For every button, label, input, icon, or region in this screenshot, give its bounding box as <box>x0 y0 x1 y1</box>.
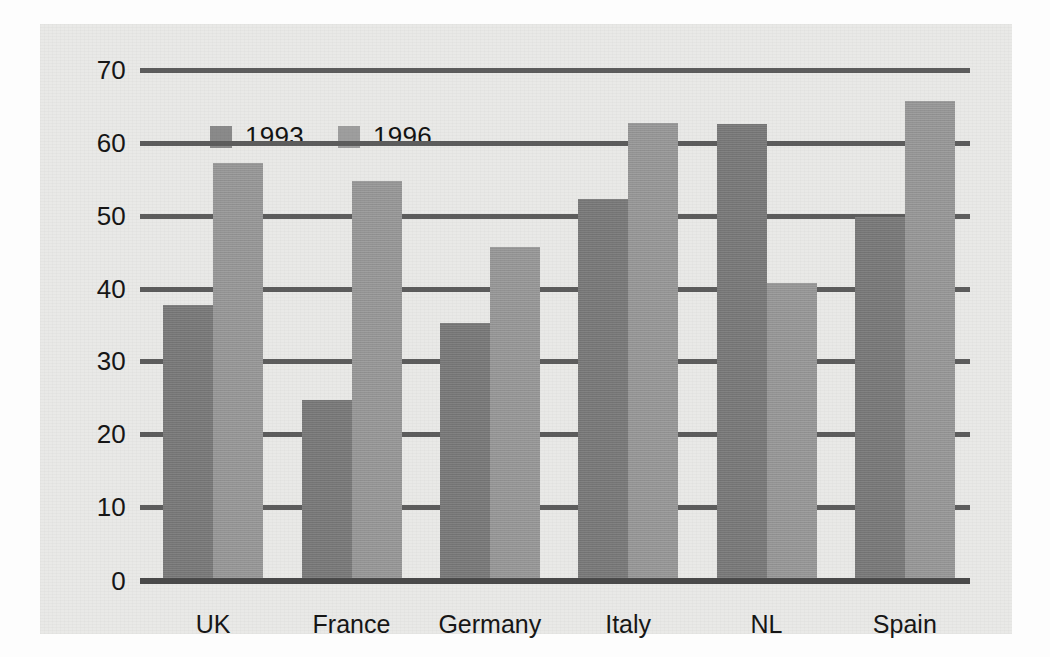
bar-spain-1993 <box>855 217 905 578</box>
gridline-60: 60 <box>140 141 970 146</box>
bar-france-1993 <box>302 400 352 579</box>
y-axis-tick-label: 60 <box>97 127 126 158</box>
y-axis-tick-label: 40 <box>97 273 126 304</box>
y-axis-tick-label: 20 <box>97 419 126 450</box>
x-axis-label-germany: Germany <box>438 610 541 639</box>
bar-uk-1996 <box>213 163 263 578</box>
x-axis-label-france: France <box>313 610 391 639</box>
bar-france-1996 <box>352 181 402 578</box>
plot-area: 010203040506070 UKFranceGermanyItalyNLSp… <box>140 44 970 602</box>
bar-uk-1993 <box>163 305 213 578</box>
bar-nl-1996 <box>767 283 817 578</box>
y-axis-tick-label: 0 <box>111 566 126 597</box>
y-axis-tick-label: 70 <box>97 55 126 86</box>
x-axis-label-nl: NL <box>751 610 783 639</box>
gridline-0: 0 <box>140 578 970 584</box>
y-axis-tick-label: 30 <box>97 346 126 377</box>
gridline-40: 40 <box>140 287 970 292</box>
gridline-70: 70 <box>140 68 970 73</box>
x-axis-label-spain: Spain <box>873 610 937 639</box>
gridline-20: 20 <box>140 432 970 437</box>
scanned-page: 1993 1996 010203040506070 UKFranceGerman… <box>0 0 1050 657</box>
gridline-50: 50 <box>140 214 970 219</box>
bar-italy-1993 <box>578 199 628 578</box>
bar-germany-1993 <box>440 323 490 578</box>
gridline-10: 10 <box>140 505 970 510</box>
bar-spain-1996 <box>905 101 955 578</box>
y-axis-tick-label: 50 <box>97 200 126 231</box>
bar-italy-1996 <box>628 123 678 578</box>
chart-panel: 1993 1996 010203040506070 UKFranceGerman… <box>40 24 1012 634</box>
x-axis-label-italy: Italy <box>605 610 651 639</box>
gridline-30: 30 <box>140 359 970 364</box>
x-axis-label-uk: UK <box>196 610 231 639</box>
bar-nl-1993 <box>717 124 767 578</box>
y-axis-tick-label: 10 <box>97 492 126 523</box>
bar-germany-1996 <box>490 247 540 579</box>
